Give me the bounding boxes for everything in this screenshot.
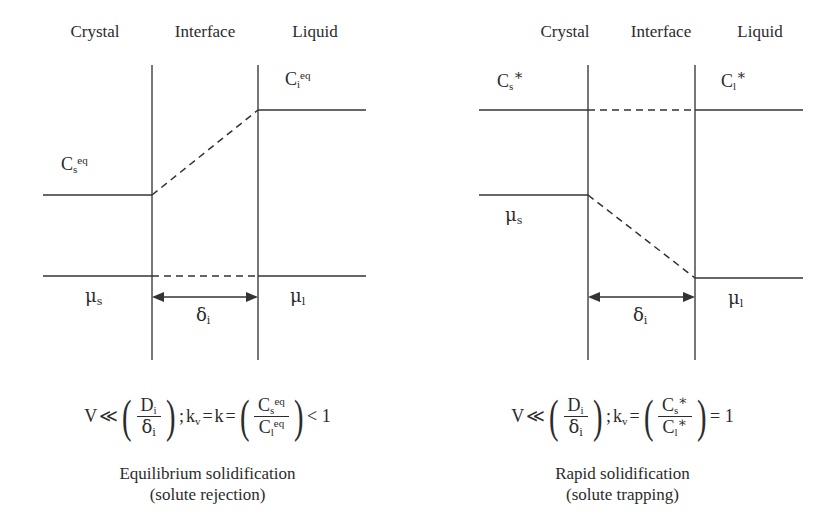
eq-cs-superscript: eq bbox=[274, 395, 284, 407]
eq-frac-numerator-right: Di bbox=[564, 396, 588, 417]
eq-kv-subscript: v bbox=[195, 415, 201, 427]
label-interface-width: δi bbox=[196, 306, 210, 324]
label-liquid-chemical-potential-right: μl bbox=[728, 289, 743, 307]
eq-velocity-symbol: V bbox=[83, 406, 98, 427]
caption-line-1: Equilibrium solidification bbox=[0, 463, 415, 484]
eq-equals-1-right: = bbox=[628, 406, 640, 427]
eq-frac-denominator-right: δi bbox=[564, 417, 586, 437]
label-ci-base: C bbox=[285, 69, 297, 89]
eq-equals-1: = bbox=[201, 406, 213, 427]
eq-delta-subscript-right: i bbox=[579, 426, 583, 439]
label-interface-width-right: δi bbox=[633, 306, 647, 324]
equation-equilibrium: V ≪ ( Di δi ) ; kv = k = ( Cseq Cleq ) bbox=[0, 396, 415, 436]
panel-equilibrium-solidification: Crystal Interface Liquid bbox=[0, 0, 415, 530]
eq-ratio-denominator-right: Cl∗ bbox=[659, 417, 692, 437]
eq-d-base-right: D bbox=[568, 395, 581, 415]
eq-diffusion-over-delta-right: Di δi bbox=[562, 396, 590, 436]
eq-frac-numerator: Di bbox=[137, 396, 161, 417]
eq-delta-subscript: i bbox=[152, 426, 156, 439]
eq-kv-base-right: k bbox=[613, 406, 622, 426]
caption-rapid: Rapid solidification (solute trapping) bbox=[415, 463, 830, 505]
eq-d-subscript: i bbox=[154, 404, 157, 416]
eq-d-subscript-right: i bbox=[581, 404, 584, 416]
chemical-potential-interface-ramp-dashed bbox=[588, 195, 695, 278]
eq-cs-star-right: ∗ bbox=[678, 393, 688, 408]
label-solid-chemical-potential: μs bbox=[85, 287, 102, 305]
label-mu-s-subscript-right: s bbox=[517, 214, 523, 227]
caption-line-2: (solute rejection) bbox=[0, 484, 415, 505]
interface-width-arrow bbox=[152, 292, 258, 302]
eq-kv-subscript-right: v bbox=[622, 415, 628, 427]
label-cs-superscript: eq bbox=[77, 154, 87, 166]
eq-kv-base: k bbox=[186, 406, 195, 426]
eq-cl-base-right: C bbox=[663, 417, 675, 437]
label-mu-s-base-right: μ bbox=[505, 204, 517, 225]
label-cl-base-right: C bbox=[721, 71, 733, 91]
label-solid-concentration-right: Cs∗ bbox=[497, 72, 524, 90]
eq-cl-star-right: ∗ bbox=[678, 415, 688, 430]
eq-semicolon: ; bbox=[178, 406, 185, 427]
label-mu-s-subscript: s bbox=[97, 295, 103, 308]
label-cl-star: ∗ bbox=[736, 67, 746, 83]
label-liquid-concentration: Cieq bbox=[285, 70, 310, 88]
panel-rapid-solidification: Crystal Interface Liquid Cs∗ bbox=[415, 0, 830, 530]
eq-velocity-symbol-right: V bbox=[510, 406, 525, 427]
eq-delta-base-right: δ bbox=[568, 416, 579, 437]
caption-line-2-right: (solute trapping) bbox=[415, 484, 830, 505]
eq-diffusion-over-delta: Di δi bbox=[135, 396, 163, 436]
concentration-interface-ramp-dashed bbox=[152, 110, 258, 195]
label-ci-superscript: eq bbox=[300, 69, 310, 81]
caption-line-1-right: Rapid solidification bbox=[415, 463, 830, 484]
figure-root: Crystal Interface Liquid bbox=[0, 0, 830, 530]
interface-width-arrow-right bbox=[588, 292, 695, 302]
label-cs-base-right: C bbox=[497, 71, 509, 91]
label-delta-base: δ bbox=[196, 304, 207, 325]
eq-much-less-than-right: ≪ bbox=[525, 405, 546, 427]
label-mu-s-base: μ bbox=[85, 285, 97, 306]
eq-d-base: D bbox=[141, 395, 154, 415]
eq-cs-base-right: C bbox=[662, 395, 674, 415]
label-mu-l-base-right: μ bbox=[728, 287, 740, 308]
eq-cs-base: C bbox=[258, 395, 270, 415]
label-liquid-chemical-potential: μl bbox=[290, 287, 305, 305]
eq-frac-denominator: δi bbox=[137, 417, 159, 437]
label-mu-l-base: μ bbox=[290, 285, 302, 306]
eq-result-right: = 1 bbox=[709, 406, 735, 427]
label-delta-subscript: i bbox=[207, 314, 211, 327]
caption-equilibrium: Equilibrium solidification (solute rejec… bbox=[0, 463, 415, 505]
eq-k-symbol: k bbox=[214, 406, 225, 427]
eq-ratio-numerator: Cseq bbox=[254, 396, 289, 417]
label-solid-concentration: Cseq bbox=[61, 155, 88, 173]
plot-rapid bbox=[415, 0, 830, 375]
label-liquid-concentration-right: Cl∗ bbox=[721, 72, 746, 90]
eq-much-less-than: ≪ bbox=[98, 405, 119, 427]
eq-result: < 1 bbox=[306, 406, 332, 427]
eq-ratio-numerator-right: Cs∗ bbox=[658, 396, 692, 417]
label-cs-base: C bbox=[61, 154, 73, 174]
eq-delta-base: δ bbox=[141, 416, 152, 437]
label-mu-l-subscript: l bbox=[302, 295, 306, 308]
eq-partition-ratio-right: Cs∗ Cl∗ bbox=[656, 396, 694, 436]
eq-partition-ratio: Cseq Cleq bbox=[252, 396, 291, 436]
eq-ratio-denominator: Cleq bbox=[255, 417, 288, 437]
label-delta-subscript-right: i bbox=[644, 314, 648, 327]
eq-kv-symbol-right: kv bbox=[612, 406, 629, 427]
label-solid-chemical-potential-right: μs bbox=[505, 206, 522, 224]
label-delta-base-right: δ bbox=[633, 304, 644, 325]
eq-semicolon-right: ; bbox=[605, 406, 612, 427]
eq-equals-2: = bbox=[225, 406, 237, 427]
label-cs-star: ∗ bbox=[513, 67, 523, 83]
eq-cl-base: C bbox=[259, 417, 271, 437]
label-mu-l-subscript-right: l bbox=[740, 297, 744, 310]
equation-rapid: V ≪ ( Di δi ) ; kv = ( Cs∗ Cl∗ ) = 1 bbox=[415, 396, 830, 436]
eq-cl-superscript: eq bbox=[274, 417, 284, 429]
eq-kv-symbol: kv bbox=[185, 406, 202, 427]
